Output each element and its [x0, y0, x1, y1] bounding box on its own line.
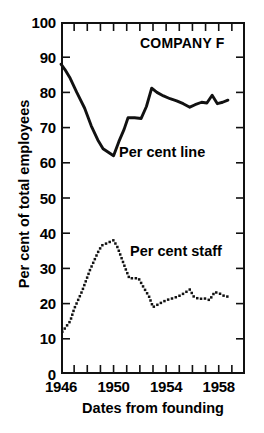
x-tick-label: 1946 [45, 379, 77, 394]
series-per-cent-staff-label: Per cent staff [130, 244, 222, 259]
y-axis-title: Per cent of total employees [16, 74, 32, 314]
left-axis-ticks [61, 57, 70, 339]
right-axis-ticks [236, 57, 245, 339]
x-tick-label: 1954 [150, 379, 182, 394]
x-axis-title: Dates from founding [61, 400, 245, 416]
series-per-cent-line-path [61, 64, 228, 156]
series-per-cent-line-label: Per cent line [119, 145, 205, 160]
chart-figure: 0102030405060708090100 1946195019541958 … [0, 0, 264, 433]
chart-title-annotation: COMPANY F [140, 36, 225, 50]
x-tick-label: 1950 [97, 379, 129, 394]
top-axis-ticks [74, 22, 232, 31]
x-tick-label: 1958 [203, 379, 235, 394]
x-axis-tick-labels: 1946195019541958 [0, 379, 264, 399]
plot-vector-layer [0, 0, 264, 433]
bottom-axis-ticks [74, 365, 232, 374]
